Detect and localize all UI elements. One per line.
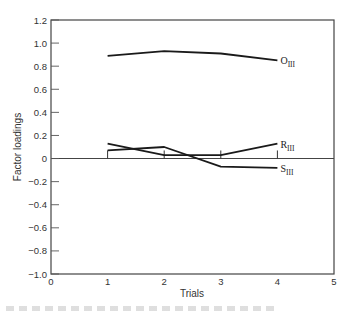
y-tick-label: −0.2 bbox=[28, 176, 47, 187]
y-tick-label: −0.8 bbox=[28, 245, 47, 256]
factor-loadings-chart: 1.21.00.80.60.40.20−0.2−0.4−0.6−0.8−1.0 … bbox=[0, 0, 348, 311]
x-tick-label: 5 bbox=[331, 276, 336, 287]
series-line-o bbox=[108, 51, 278, 60]
series-label-s: SIII bbox=[280, 163, 294, 177]
y-tick-label: −1.0 bbox=[28, 269, 47, 280]
y-tick-label: 1.0 bbox=[34, 38, 47, 49]
y-tick-label: 0.6 bbox=[34, 84, 47, 95]
x-tick-label: 4 bbox=[275, 276, 280, 287]
truncated-caption bbox=[6, 306, 276, 311]
x-axis-ticks: 012345 bbox=[48, 276, 336, 287]
y-tick-label: 0.2 bbox=[34, 130, 47, 141]
y-axis-title: Factor loadings bbox=[12, 113, 23, 181]
series-label-r: RIII bbox=[280, 139, 295, 153]
y-tick-label: 0.4 bbox=[34, 107, 47, 118]
y-axis-ticks: 1.21.00.80.60.40.20−0.2−0.4−0.6−0.8−1.0 bbox=[28, 15, 59, 280]
series-label-o: OIII bbox=[280, 55, 295, 69]
series-lines bbox=[108, 51, 278, 168]
y-tick-label: 1.2 bbox=[34, 15, 47, 26]
x-tick-label: 1 bbox=[105, 276, 110, 287]
y-tick-label: 0 bbox=[42, 153, 47, 164]
x-axis-title: Trials bbox=[180, 288, 204, 299]
x-tick-label: 0 bbox=[48, 276, 53, 287]
y-tick-label: 0.8 bbox=[34, 61, 47, 72]
x-tick-label: 2 bbox=[162, 276, 167, 287]
y-tick-label: −0.6 bbox=[28, 222, 47, 233]
x-tick-label: 3 bbox=[218, 276, 223, 287]
y-tick-label: −0.4 bbox=[28, 199, 47, 210]
series-line-s bbox=[108, 147, 278, 168]
